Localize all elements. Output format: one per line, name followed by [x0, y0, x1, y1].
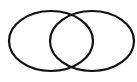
venn-diagram	[0, 0, 137, 82]
